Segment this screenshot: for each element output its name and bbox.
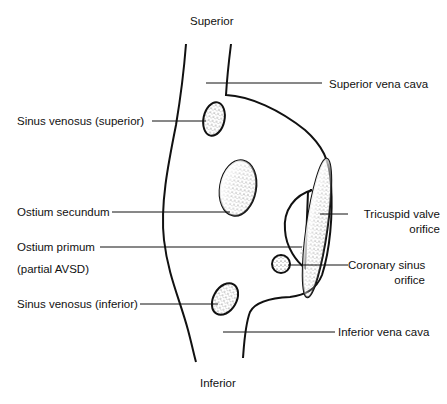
left-wall-outline [163,44,196,362]
sinus-venosus-superior-label: Sinus venosus (superior) [17,114,144,128]
ostium-secundum-label: Ostium secundum [17,205,110,219]
tricuspid-label-line1: Tricuspid valve [350,207,440,221]
coronary-label-line1: Coronary sinus [348,258,425,272]
inferior-vena-cava-label: Inferior vena cava [338,325,429,339]
ostium-primum-label: Ostium primum (partial AVSD) [17,240,95,276]
inferior-label: Inferior [200,376,236,390]
sinus-venosus-inferior-defect [207,279,244,320]
ostium-primum-label-line1: Ostium primum [17,240,95,254]
sinus-venosus-inferior-label: Sinus venosus (inferior) [17,297,138,311]
ostium-primum-label-line2: (partial AVSD) [17,262,95,276]
coronary-sinus-orifice [272,255,290,273]
coronary-sinus-orifice-label: Coronary sinus orifice [348,258,425,287]
tricuspid-label-line2: orifice [350,222,440,236]
atrial-septal-defect-diagram [0,0,447,404]
sinus-venosus-superior-defect [200,100,228,138]
superior-vena-cava-label: Superior vena cava [329,77,428,91]
coronary-label-line2: orifice [348,273,425,287]
tricuspid-valve-orifice-label: Tricuspid valve orifice [350,207,440,236]
superior-label: Superior [190,14,233,28]
